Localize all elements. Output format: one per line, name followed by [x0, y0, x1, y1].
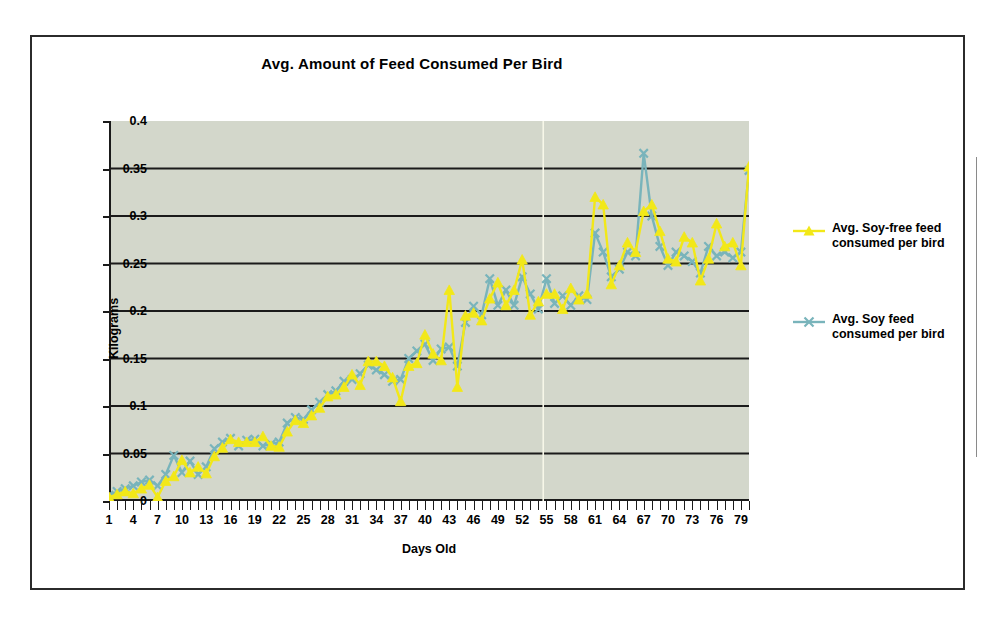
legend-label: Avg. Soy-free feedconsumed per bird [832, 221, 945, 252]
data-point [647, 199, 657, 209]
legend-entry[interactable]: Avg. Soy feedconsumed per bird [792, 312, 977, 343]
legend-label-line1: Avg. Soy-free feed [832, 221, 945, 236]
x-tick-mark [733, 501, 734, 510]
data-point [420, 330, 430, 340]
legend-label-line2: consumed per bird [832, 327, 945, 342]
x-tick-mark [717, 501, 718, 510]
x-tick-mark [125, 501, 126, 510]
x-tick-mark [563, 501, 564, 510]
x-tick-mark [457, 501, 458, 510]
x-tick-mark [668, 501, 669, 510]
x-tick-label: 46 [467, 513, 481, 527]
x-tick-mark [449, 501, 450, 510]
x-tick-label: 10 [175, 513, 189, 527]
x-tick-mark [611, 501, 612, 510]
x-tick-mark [676, 501, 677, 510]
y-tick-label: 0.3 [130, 209, 147, 223]
x-tick-label: 4 [130, 513, 137, 527]
x-tick-label: 34 [369, 513, 383, 527]
chart-canvas [109, 121, 749, 501]
x-tick-label: 58 [564, 513, 578, 527]
x-tick-mark [352, 501, 353, 510]
x-tick-mark [441, 501, 442, 510]
x-tick-mark [376, 501, 377, 510]
x-tick-label: 31 [345, 513, 359, 527]
x-tick-label: 73 [685, 513, 699, 527]
x-tick-mark [498, 501, 499, 510]
x-tick-mark [303, 501, 304, 510]
x-tick-label: 52 [515, 513, 529, 527]
x-tick-label: 67 [637, 513, 651, 527]
x-tick-mark [320, 501, 321, 510]
x-tick-mark [198, 501, 199, 510]
x-tick-mark [117, 501, 118, 510]
data-point [177, 455, 187, 465]
gridlines [109, 121, 749, 501]
x-tick-mark [295, 501, 296, 510]
x-tick-mark [490, 501, 491, 510]
x-tick-mark [312, 501, 313, 510]
data-series-layer [109, 149, 749, 501]
data-point [395, 396, 405, 406]
x-tick-label: 28 [321, 513, 335, 527]
y-tick-label: 0.05 [123, 447, 147, 461]
legend-label-line1: Avg. Soy feed [832, 312, 945, 327]
data-point [178, 468, 186, 476]
x-tick-mark [279, 501, 280, 510]
legend-label-line2: consumed per bird [832, 236, 945, 251]
x-tick-mark [222, 501, 223, 510]
x-tick-label: 19 [248, 513, 262, 527]
x-tick-mark [393, 501, 394, 510]
x-tick-mark [174, 501, 175, 510]
x-tick-label: 13 [199, 513, 213, 527]
data-point [680, 252, 688, 260]
data-point [517, 255, 527, 265]
x-tick-mark [206, 501, 207, 510]
x-tick-mark [247, 501, 248, 510]
legend-entry[interactable]: Avg. Soy-free feedconsumed per bird [792, 221, 977, 252]
x-tick-mark [263, 501, 264, 510]
x-tick-mark [425, 501, 426, 510]
x-tick-mark [636, 501, 637, 510]
x-tick-mark [522, 501, 523, 510]
x-tick-mark [603, 501, 604, 510]
data-point [444, 285, 454, 295]
x-tick-mark [587, 501, 588, 510]
chart-legend: Avg. Soy-free feedconsumed per birdAvg. … [792, 221, 977, 402]
x-tick-mark [652, 501, 653, 510]
x-tick-mark [182, 501, 183, 510]
x-tick-mark [627, 501, 628, 510]
x-tick-label: 61 [588, 513, 602, 527]
x-tick-label: 43 [442, 513, 456, 527]
x-tick-label: 37 [394, 513, 408, 527]
x-tick-mark [474, 501, 475, 510]
data-point [566, 283, 576, 293]
x-tick-mark [482, 501, 483, 510]
x-tick-label: 79 [734, 513, 748, 527]
x-tick-mark [190, 501, 191, 510]
x-tick-mark [514, 501, 515, 510]
x-tick-mark [360, 501, 361, 510]
x-tick-mark [141, 501, 142, 510]
data-point [729, 254, 737, 262]
data-point [582, 289, 592, 299]
x-tick-mark [530, 501, 531, 510]
x-tick-labels: 1471013161922252831343740434649525558616… [109, 513, 749, 533]
data-point [712, 252, 720, 260]
x-tick-mark [158, 501, 159, 510]
x-tick-mark [725, 501, 726, 510]
y-tick-label: 0.2 [130, 304, 147, 318]
x-tick-mark [619, 501, 620, 510]
plot-wrapper: 00.050.10.150.20.250.30.350.4 Kilograms … [109, 121, 749, 501]
data-point [347, 369, 357, 379]
x-tick-mark [700, 501, 701, 510]
chart-frame: Avg. Amount of Feed Consumed Per Bird 00… [30, 35, 965, 590]
data-point [622, 237, 632, 247]
x-tick-label: 22 [272, 513, 286, 527]
data-point [728, 237, 738, 247]
x-tick-label: 49 [491, 513, 505, 527]
x-axis-title: Days Old [109, 542, 749, 556]
x-tick-mark [344, 501, 345, 510]
x-tick-mark [239, 501, 240, 510]
legend-divider [976, 157, 977, 457]
